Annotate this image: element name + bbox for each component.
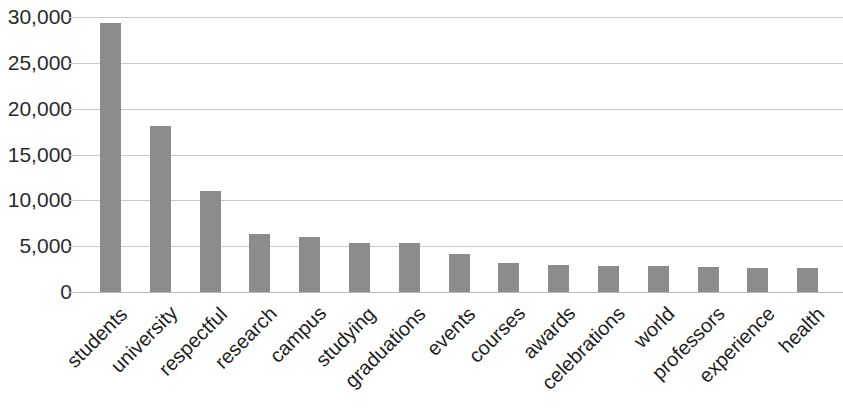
bar <box>200 191 221 292</box>
bar <box>648 266 669 292</box>
bar <box>100 23 121 292</box>
bar <box>299 237 320 292</box>
y-axis-tick <box>68 109 79 110</box>
bar <box>399 243 420 292</box>
y-axis-tick <box>68 200 79 201</box>
bars-layer <box>78 0 843 293</box>
bar <box>698 267 719 292</box>
y-axis-tick <box>68 292 79 293</box>
y-axis-tick-label: 5,000 <box>0 235 72 256</box>
y-axis-tick-label: 20,000 <box>0 98 72 119</box>
y-axis-tick-label: 25,000 <box>0 52 72 73</box>
y-axis-tick <box>68 155 79 156</box>
bar <box>150 126 171 292</box>
y-axis-tick-label: 30,000 <box>0 6 72 27</box>
bar <box>349 243 370 292</box>
bar <box>449 254 470 292</box>
y-axis-tick <box>68 63 79 64</box>
bar <box>249 234 270 292</box>
y-axis-tick <box>68 17 79 18</box>
y-axis-tick-label: 15,000 <box>0 144 72 165</box>
y-axis-tick <box>68 246 79 247</box>
bar <box>598 266 619 292</box>
bar <box>548 265 569 293</box>
bar <box>797 268 818 292</box>
y-axis-labels: 30,00025,00020,00015,00010,0005,0000 <box>0 0 72 293</box>
bar <box>747 268 768 292</box>
bar <box>498 263 519 292</box>
bar-chart: 30,00025,00020,00015,00010,0005,0000 stu… <box>0 0 843 409</box>
x-axis-tick-label: health <box>775 303 828 356</box>
y-axis-tick-label: 10,000 <box>0 189 72 210</box>
x-axis-labels: studentsuniversityrespectfulresearchcamp… <box>0 293 843 409</box>
x-axis-tick-label: courses <box>465 303 529 367</box>
